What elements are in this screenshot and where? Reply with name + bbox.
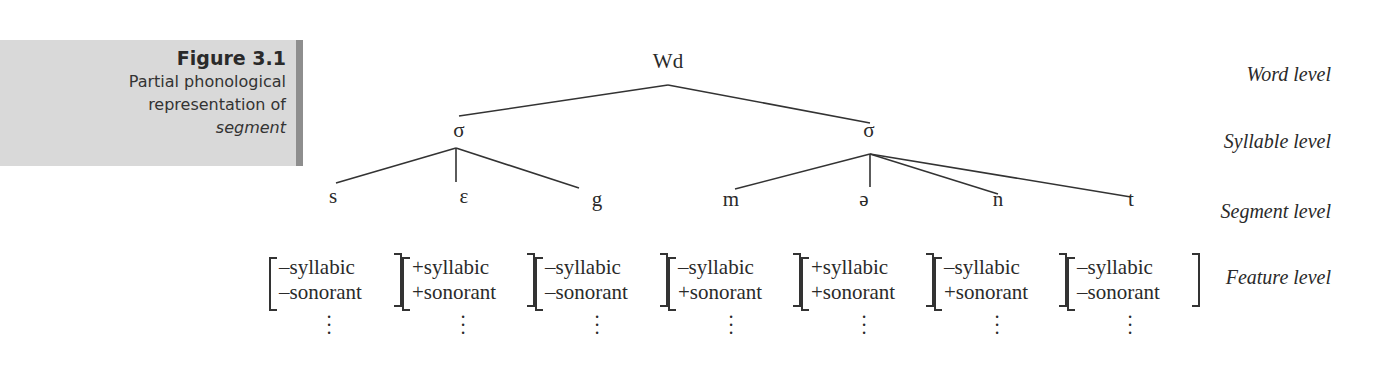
vertical-ellipsis-icon: ··· <box>326 313 333 337</box>
feature-sonorant: +sonorant <box>811 280 926 305</box>
vertical-ellipsis-icon: ··· <box>994 313 1001 337</box>
level-label-segment: Segment level <box>1221 199 1332 223</box>
branch-syl1-s <box>336 148 456 183</box>
vertical-ellipsis-icon: ··· <box>460 313 467 337</box>
segment-g: g <box>592 187 603 211</box>
feature-syllabic: –syllabic <box>1077 255 1192 280</box>
branch-syl2-n <box>870 154 998 194</box>
feature-sonorant: –sonorant <box>1077 280 1192 305</box>
segment-m: m <box>723 187 739 211</box>
segment-schwa: ə <box>859 187 868 211</box>
feature-matrix-n: –syllabic +sonorant <box>934 255 1067 311</box>
vertical-ellipsis-icon: ··· <box>728 313 735 337</box>
branch-wd-syllable-2 <box>668 85 870 123</box>
segment-n: n <box>993 187 1004 211</box>
feature-matrix-epsilon: +syllabic +sonorant <box>402 255 535 311</box>
branch-syl2-m <box>735 154 870 189</box>
feature-syllabic: –syllabic <box>279 255 394 280</box>
syllable-node-1: σ <box>453 118 464 142</box>
segment-epsilon: ɛ <box>460 184 469 208</box>
feature-syllabic: –syllabic <box>944 255 1059 280</box>
feature-matrix-m: –syllabic +sonorant <box>668 255 801 311</box>
feature-sonorant: +sonorant <box>944 280 1059 305</box>
level-label-feature: Feature level <box>1226 265 1331 289</box>
vertical-ellipsis-icon: ··· <box>861 313 868 337</box>
feature-sonorant: +sonorant <box>678 280 793 305</box>
level-label-word: Word level <box>1246 62 1331 86</box>
branch-syl1-g <box>456 148 579 188</box>
feature-sonorant: +sonorant <box>412 280 527 305</box>
segment-t: t <box>1128 187 1134 211</box>
feature-syllabic: +syllabic <box>412 255 527 280</box>
segment-s: s <box>329 184 337 208</box>
vertical-ellipsis-icon: ··· <box>594 313 601 337</box>
syllable-node-2: σ <box>863 118 874 142</box>
feature-sonorant: –sonorant <box>545 280 660 305</box>
feature-syllabic: +syllabic <box>811 255 926 280</box>
feature-matrix-schwa: +syllabic +sonorant <box>801 255 934 311</box>
word-node: Wd <box>653 49 683 73</box>
feature-sonorant: –sonorant <box>279 280 394 305</box>
feature-matrix-g: –syllabic –sonorant <box>535 255 668 311</box>
tree-branches <box>0 0 1393 371</box>
vertical-ellipsis-icon: ··· <box>1127 313 1134 337</box>
feature-syllabic: –syllabic <box>678 255 793 280</box>
feature-syllabic: –syllabic <box>545 255 660 280</box>
branch-wd-syllable-1 <box>459 85 668 116</box>
level-label-syllable: Syllable level <box>1224 129 1331 153</box>
feature-matrix-t: –syllabic –sonorant <box>1067 255 1200 311</box>
feature-matrix-s: –syllabic –sonorant <box>269 255 402 311</box>
